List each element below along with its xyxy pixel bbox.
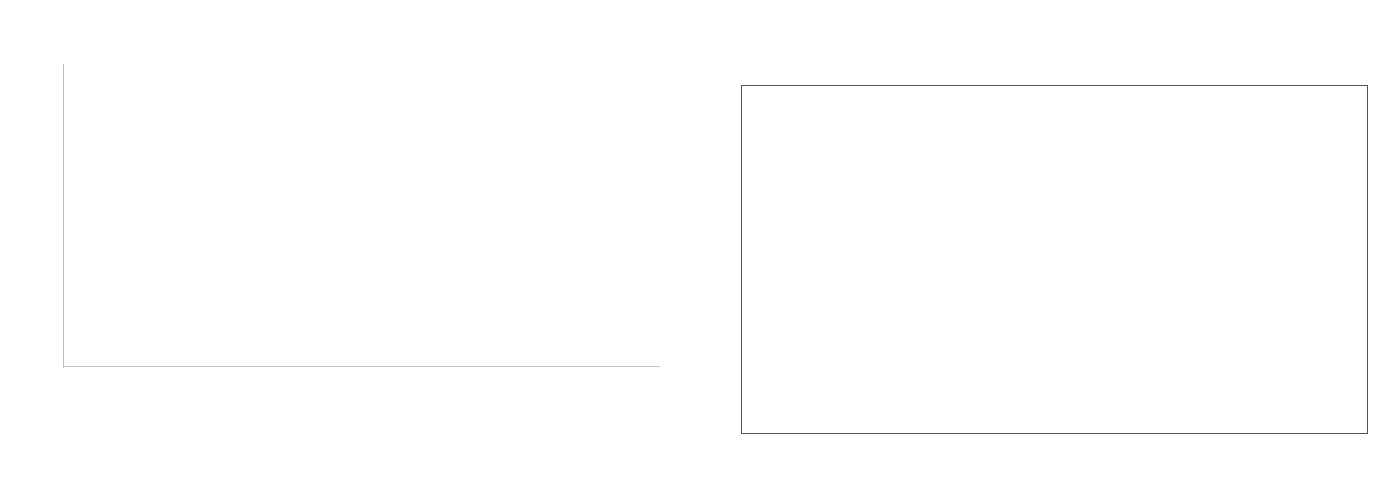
left-x-axis-line [63, 366, 660, 367]
reference-fit-line [742, 86, 1367, 433]
left-chart-panel [0, 0, 694, 497]
left-y-axis-line [63, 64, 64, 368]
right-plot-frame [741, 85, 1368, 434]
